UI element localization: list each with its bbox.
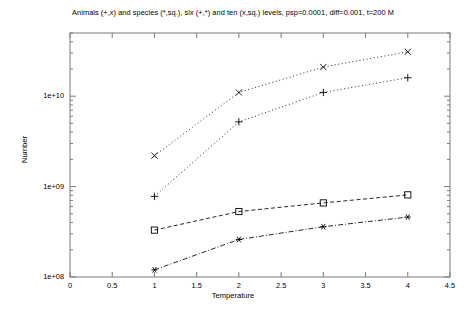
series-3 — [151, 214, 411, 272]
x-tick-label: 3.5 — [351, 281, 381, 290]
series-0 — [151, 49, 411, 159]
x-tick-label: 3 — [308, 281, 338, 290]
x-tick-label: 4 — [393, 281, 423, 290]
y-tick-label: 1e+08 — [18, 272, 64, 281]
axis-ticks — [70, 33, 450, 277]
y-tick-label: 1e+10 — [18, 91, 64, 100]
x-tick-label: 4.5 — [435, 281, 465, 290]
data-series-group — [151, 49, 412, 273]
x-tick-label: 0.5 — [97, 281, 127, 290]
x-tick-label: 1.5 — [182, 281, 212, 290]
x-tick-label: 1 — [139, 281, 169, 290]
series-1 — [151, 74, 412, 200]
plot-frame — [70, 33, 450, 277]
y-tick-label: 1e+09 — [18, 182, 64, 191]
x-tick-label: 2.5 — [266, 281, 296, 290]
x-tick-label: 0 — [55, 281, 85, 290]
series-2 — [151, 192, 411, 233]
chart-container: Animals (+,x) and species (*,sq.), six (… — [0, 0, 466, 310]
plot-area — [0, 0, 466, 310]
x-tick-label: 2 — [224, 281, 254, 290]
